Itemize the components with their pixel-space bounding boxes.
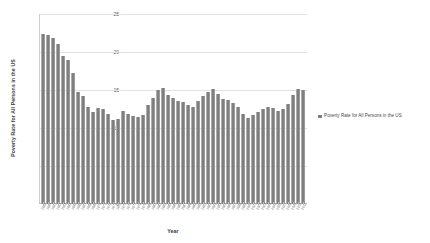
bar[interactable]	[176, 101, 180, 204]
bar[interactable]	[206, 92, 210, 204]
bar[interactable]	[116, 119, 120, 204]
legend-swatch-icon	[318, 115, 322, 119]
poverty-rate-bar-chart: Poverty Rate for All Persons in the US 0…	[0, 0, 430, 243]
bar[interactable]	[196, 101, 200, 204]
bar[interactable]	[121, 111, 125, 204]
bar[interactable]	[106, 114, 110, 204]
legend: Poverty Rate for All Persons in the US	[318, 114, 402, 119]
bar[interactable]	[246, 118, 250, 204]
bar[interactable]	[201, 96, 205, 204]
bar[interactable]	[271, 108, 275, 204]
bar[interactable]	[266, 107, 270, 204]
bar[interactable]	[291, 95, 295, 204]
bar[interactable]	[161, 88, 165, 204]
bar[interactable]	[211, 89, 215, 204]
bar[interactable]	[216, 94, 220, 204]
bar-series	[39, 14, 307, 204]
bar[interactable]	[241, 114, 245, 204]
bar[interactable]	[51, 38, 55, 204]
bar[interactable]	[186, 105, 190, 204]
bar[interactable]	[46, 35, 50, 204]
legend-item-label: Poverty Rate for All Persons in the US	[324, 114, 402, 119]
bar[interactable]	[231, 103, 235, 204]
bar[interactable]	[156, 90, 160, 204]
bar[interactable]	[71, 73, 75, 204]
bar[interactable]	[286, 104, 290, 204]
bar[interactable]	[221, 99, 225, 204]
bar[interactable]	[141, 115, 145, 204]
x-axis-tick-labels: 1959196019611962196319641965196619671968…	[39, 205, 307, 229]
bar[interactable]	[281, 109, 285, 204]
x-axis-title: Year	[39, 228, 307, 234]
plot-area	[39, 14, 307, 204]
bar[interactable]	[101, 109, 105, 204]
bar[interactable]	[166, 95, 170, 204]
bar[interactable]	[76, 92, 80, 204]
y-axis-title: Poverty Rate for All Persons in the US	[10, 33, 16, 183]
bar[interactable]	[226, 100, 230, 204]
bar[interactable]	[91, 112, 95, 204]
bar[interactable]	[276, 111, 280, 204]
bar[interactable]	[296, 89, 300, 204]
bar[interactable]	[171, 98, 175, 204]
bar[interactable]	[131, 116, 135, 204]
bar[interactable]	[81, 96, 85, 204]
bar[interactable]	[66, 60, 70, 204]
bar[interactable]	[181, 102, 185, 204]
bar[interactable]	[261, 109, 265, 204]
bar[interactable]	[61, 56, 65, 204]
bar[interactable]	[256, 112, 260, 204]
bar-slot	[301, 14, 306, 204]
bar[interactable]	[151, 98, 155, 204]
bar[interactable]	[191, 107, 195, 204]
x-tick-slot: 2011	[301, 205, 306, 229]
bar[interactable]	[251, 115, 255, 204]
bar[interactable]	[111, 120, 115, 204]
bar[interactable]	[301, 90, 305, 204]
bar[interactable]	[126, 114, 130, 204]
bar[interactable]	[136, 117, 140, 204]
bar[interactable]	[86, 107, 90, 204]
x-axis-tick-label: 2011	[301, 203, 307, 211]
bar[interactable]	[146, 105, 150, 204]
bar[interactable]	[96, 108, 100, 204]
bar[interactable]	[56, 44, 60, 204]
bar[interactable]	[41, 34, 45, 204]
bar[interactable]	[236, 107, 240, 204]
